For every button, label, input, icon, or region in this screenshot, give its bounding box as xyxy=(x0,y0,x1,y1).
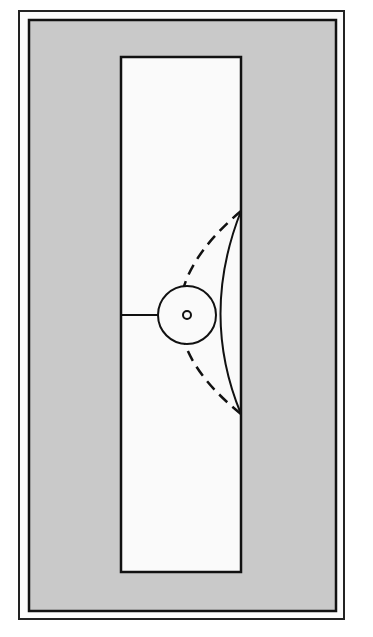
diagram-svg xyxy=(0,0,373,637)
diagram-canvas xyxy=(0,0,373,637)
center-dot-icon xyxy=(183,311,191,319)
